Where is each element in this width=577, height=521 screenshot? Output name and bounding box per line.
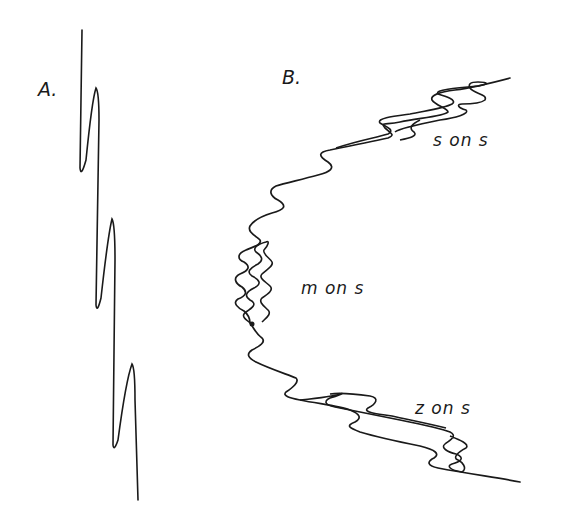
parasitic-fold-m-on-s	[244, 242, 273, 324]
fold-diagram	[0, 0, 577, 521]
fold-curve-b	[236, 78, 520, 482]
fold-hinge-dot	[250, 322, 255, 327]
parasitic-fold-s-on-s-inner	[400, 120, 420, 140]
parasitic-fold-z-on-s-inner	[330, 393, 446, 428]
parasitic-fold-s-on-s	[336, 82, 486, 148]
fold-curve-a	[80, 30, 138, 500]
